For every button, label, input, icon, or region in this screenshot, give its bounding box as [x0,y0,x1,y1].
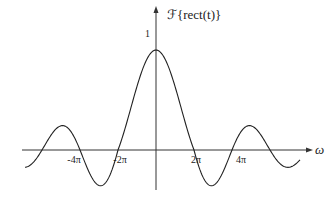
sinc-curve [25,50,300,186]
y-axis-arrow-icon [154,6,159,13]
y-tick-one: 1 [145,29,150,39]
x-tick-neg-4pi: -4π [67,155,80,165]
x-axis-label: ω [315,143,324,156]
x-axis-arrow-icon [306,148,313,153]
x-tick-2pi: 2π [191,155,201,165]
y-axis-label: ℱ{rect(t)} [167,8,221,21]
x-tick-neg-2pi: -2π [113,155,126,165]
sinc-plot [0,0,325,202]
x-tick-4pi: 4π [236,155,246,165]
